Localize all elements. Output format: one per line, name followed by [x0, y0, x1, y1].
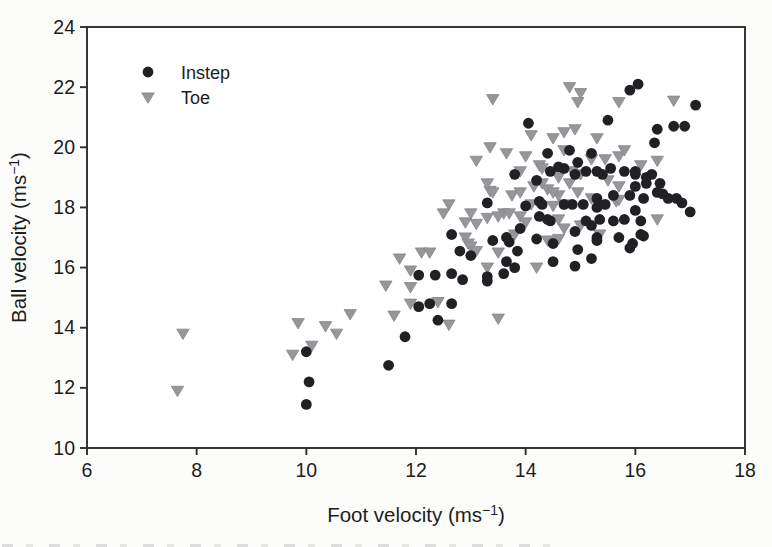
instep-data-point	[564, 145, 575, 156]
legend-label-instep: Instep	[181, 63, 230, 83]
instep-data-point	[655, 178, 666, 189]
instep-data-point	[501, 232, 512, 243]
instep-data-point	[597, 169, 608, 180]
instep-data-point	[523, 118, 534, 129]
instep-data-point	[619, 214, 630, 225]
instep-data-point	[537, 199, 548, 210]
instep-data-point	[619, 166, 630, 177]
instep-data-point	[652, 124, 663, 135]
instep-data-point	[690, 100, 701, 111]
instep-data-point	[383, 360, 394, 371]
instep-data-point	[446, 229, 457, 240]
instep-data-point	[548, 238, 559, 249]
instep-data-point	[624, 243, 635, 254]
instep-data-point	[542, 148, 553, 159]
y-tick-label: 18	[53, 196, 75, 218]
instep-data-point	[509, 169, 520, 180]
y-tick-label: 10	[53, 437, 75, 459]
instep-data-point	[498, 268, 509, 279]
instep-data-point	[482, 198, 493, 209]
instep-data-point	[685, 207, 696, 218]
instep-data-point	[592, 193, 603, 204]
instep-data-point	[630, 205, 641, 216]
y-tick-label: 16	[53, 256, 75, 278]
instep-data-point	[424, 298, 435, 309]
x-tick-label: 10	[295, 459, 317, 481]
instep-data-point	[454, 246, 465, 257]
instep-data-point	[400, 331, 411, 342]
instep-data-point	[630, 181, 641, 192]
instep-data-point	[572, 244, 583, 255]
scatter-figure: 6810121416181012141618202224 Foot veloci…	[0, 0, 772, 547]
instep-data-point	[570, 261, 581, 272]
x-tick-label: 16	[624, 459, 646, 481]
instep-data-point	[457, 274, 468, 285]
instep-data-point	[515, 223, 526, 234]
instep-data-point	[413, 301, 424, 312]
instep-data-point	[570, 169, 581, 180]
instep-data-point	[465, 250, 476, 261]
x-tick-label: 12	[405, 459, 427, 481]
x-axis-title: Foot velocity (ms−1)	[327, 502, 505, 526]
x-tick-label: 18	[734, 459, 756, 481]
scatter-chart-canvas: 6810121416181012141618202224 Foot veloci…	[0, 0, 772, 547]
instep-data-point	[433, 315, 444, 326]
instep-data-point	[570, 226, 581, 237]
instep-data-point	[542, 214, 553, 225]
instep-data-point	[301, 399, 312, 410]
instep-data-point	[586, 253, 597, 264]
instep-data-point	[430, 270, 441, 281]
instep-data-point	[446, 268, 457, 279]
instep-data-point	[624, 190, 635, 201]
instep-data-point	[487, 235, 498, 246]
y-tick-label: 14	[53, 316, 75, 338]
instep-data-point	[608, 190, 619, 201]
y-tick-label: 12	[53, 376, 75, 398]
instep-data-point	[512, 246, 523, 257]
instep-data-point	[586, 220, 597, 231]
instep-data-point	[649, 137, 660, 148]
instep-data-point	[413, 270, 424, 281]
instep-data-point	[603, 115, 614, 126]
instep-data-point	[567, 199, 578, 210]
instep-data-point	[548, 256, 559, 267]
y-tick-label: 20	[53, 136, 75, 158]
instep-data-point	[553, 161, 564, 172]
instep-data-point	[482, 276, 493, 287]
instep-data-point	[578, 199, 589, 210]
y-tick-label: 24	[53, 16, 75, 38]
instep-data-point	[613, 232, 624, 243]
instep-data-point	[657, 188, 668, 199]
instep-data-point	[679, 121, 690, 132]
instep-data-point	[608, 216, 619, 227]
instep-data-point	[638, 193, 649, 204]
y-tick-label: 22	[53, 76, 75, 98]
instep-data-point	[531, 175, 542, 186]
instep-data-point	[304, 376, 315, 387]
instep-data-point	[520, 201, 531, 212]
legend-marker-instep	[143, 67, 154, 78]
x-tick-label: 6	[82, 459, 93, 481]
instep-data-point	[592, 235, 603, 246]
instep-data-point	[586, 148, 597, 159]
instep-data-point	[630, 169, 641, 180]
instep-data-point	[646, 169, 657, 180]
instep-data-point	[633, 79, 644, 90]
instep-data-point	[638, 231, 649, 242]
instep-data-point	[677, 198, 688, 209]
instep-data-point	[301, 346, 312, 357]
x-tick-label: 14	[515, 459, 537, 481]
legend-label-toe: Toe	[181, 88, 210, 108]
instep-data-point	[668, 121, 679, 132]
instep-data-point	[635, 216, 646, 227]
instep-data-point	[581, 166, 592, 177]
instep-data-point	[531, 234, 542, 245]
instep-data-point	[572, 157, 583, 168]
instep-data-point	[446, 298, 457, 309]
x-tick-label: 8	[191, 459, 202, 481]
y-axis-title: Ball velocity (ms−1)	[6, 152, 30, 323]
instep-data-point	[509, 262, 520, 273]
